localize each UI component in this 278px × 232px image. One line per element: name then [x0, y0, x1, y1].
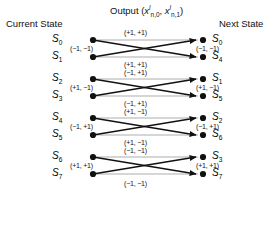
butterfly-2 [93, 79, 198, 96]
current-state-label-6: S6 [52, 151, 62, 165]
next-state-label-5: S6 [212, 129, 222, 143]
edge-label-gap-1b: (−1, +1) [124, 69, 147, 77]
next-state-label-3: S5 [212, 90, 222, 104]
trellis-diagram: Current State Next State Output (xln,0, … [0, 0, 278, 232]
edge-label-right-3: (−1, +1) [196, 123, 219, 131]
next-state-label-7: S7 [212, 168, 222, 182]
edge-label-right-1: (−1, −1) [196, 45, 219, 53]
butterfly-4 [93, 157, 198, 174]
current-state-label-3: S3 [52, 90, 62, 104]
edge-label-top: (+1, +1) [124, 29, 147, 37]
edge-label-gap-1a: (+1, +1) [124, 61, 147, 69]
edge-label-gap-2b: (+1, −1) [124, 108, 147, 116]
current-state-label-0: S0 [52, 34, 62, 48]
edge-label-gap-2a: (−1, +1) [124, 100, 147, 108]
trellis-nodes [90, 37, 206, 177]
edge-label-left-3: (−1, +1) [70, 123, 93, 131]
edge-label-gap-3a: (+1, −1) [124, 139, 147, 147]
butterfly-1 [93, 40, 198, 57]
edge-label-bottom: (−1, −1) [124, 180, 147, 188]
current-state-label-1: S1 [52, 51, 62, 65]
current-state-label-4: S4 [52, 112, 62, 126]
next-state-label-1: S4 [212, 51, 222, 65]
edge-label-left-4: (+1, +1) [70, 162, 93, 170]
edge-label-left-2: (+1, −1) [70, 84, 93, 92]
edge-label-left-1: (−1, −1) [70, 45, 93, 53]
edge-label-gap-3b: (−1, −1) [124, 147, 147, 155]
current-state-label-7: S7 [52, 168, 62, 182]
current-state-label-5: S5 [52, 129, 62, 143]
edge-label-right-2: (+1, −1) [196, 84, 219, 92]
butterfly-3 [93, 118, 198, 135]
current-state-label-2: S2 [52, 73, 62, 87]
edge-label-right-4: (+1, +1) [196, 162, 219, 170]
